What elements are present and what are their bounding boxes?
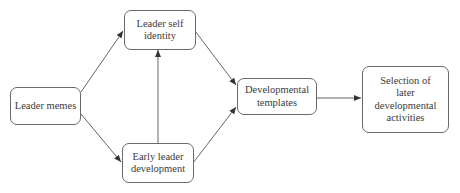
- node-label: Leader self identity: [134, 18, 186, 43]
- node-developmental-templates: Developmental templates: [237, 78, 317, 115]
- edge-memes-to-self-identity: [81, 31, 123, 92]
- node-leader-memes: Leader memes: [10, 87, 81, 125]
- node-label: Selection of later developmental activit…: [373, 75, 439, 125]
- node-label: Leader memes: [15, 100, 77, 113]
- node-selection-later-activities: Selection of later developmental activit…: [362, 66, 449, 133]
- node-early-leader-development: Early leader development: [122, 143, 194, 183]
- edge-memes-to-early-development: [81, 114, 121, 162]
- node-label: Developmental templates: [242, 84, 312, 109]
- edge-self-identity-to-templates: [195, 31, 236, 85]
- node-leader-self-identity: Leader self identity: [124, 10, 196, 50]
- edge-early-development-to-templates: [193, 107, 236, 163]
- node-label: Early leader development: [127, 151, 189, 176]
